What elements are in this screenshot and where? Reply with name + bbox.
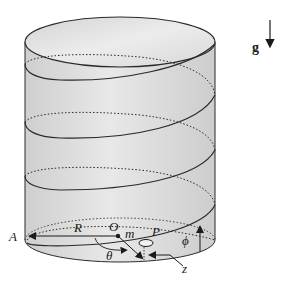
label-m: m [125,226,134,241]
label-R: R [73,220,82,235]
gravity-indicator: g [252,20,270,55]
bead-mass [139,240,153,247]
gravity-label: g [252,40,259,55]
label-A: A [8,229,17,244]
label-phi: ϕ [182,233,189,248]
label-O: O [109,219,119,234]
cylinder-top-ellipse [25,17,215,67]
label-z: z [181,261,187,276]
cylinder [25,17,215,262]
helix-cylinder-diagram: g A R O m P θ z ϕ [0,0,287,283]
label-P: P [151,224,160,239]
label-theta: θ [106,248,113,263]
